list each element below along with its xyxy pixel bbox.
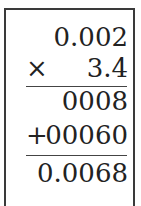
- multiplicand: 0.002: [54, 21, 128, 53]
- partial-product-1: 0008: [62, 85, 128, 117]
- partial-product-2: 00060: [45, 119, 128, 151]
- multiplier: 3.4: [87, 52, 128, 84]
- multiplier-row: × 3.4: [24, 52, 128, 84]
- partial-product-2-row: + 00060: [24, 119, 128, 151]
- sum-rule: [26, 155, 127, 156]
- result-row: 0.0068: [24, 157, 128, 189]
- multiply-sign: ×: [26, 52, 48, 84]
- partial-product-1-row: 0008: [24, 85, 128, 117]
- result: 0.0068: [37, 157, 128, 189]
- multiplicand-row: 0.002: [24, 21, 128, 53]
